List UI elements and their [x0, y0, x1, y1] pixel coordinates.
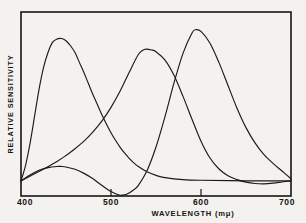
sensitivity-chart: 400 500 600 700 WAVELENGTH (mμ) RELATIVE… — [0, 0, 306, 223]
figure-container: 400 500 600 700 WAVELENGTH (mμ) RELATIVE… — [0, 0, 306, 223]
y-axis-title: RELATIVE SENSITIVITY — [6, 55, 15, 154]
x-tick-label-600: 600 — [193, 197, 209, 207]
x-tick-label-400: 400 — [17, 197, 33, 207]
x-tick-label-500: 500 — [103, 197, 119, 207]
chart-background — [0, 0, 306, 223]
x-axis-title: WAVELENGTH (mμ) — [152, 209, 235, 218]
x-tick-label-700: 700 — [279, 197, 295, 207]
